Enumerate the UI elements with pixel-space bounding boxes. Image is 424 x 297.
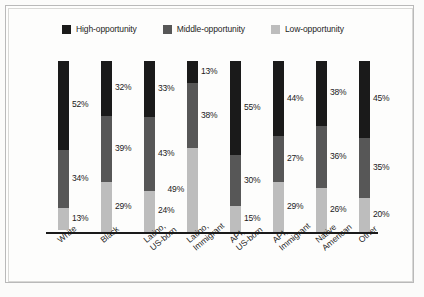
value-label-middle: 36% <box>330 151 346 161</box>
segment-high <box>273 61 284 136</box>
x-axis-line <box>46 232 378 234</box>
bar-native-american: 38%36%26% <box>316 61 327 232</box>
segment-high <box>58 61 69 150</box>
segment-high <box>230 61 241 155</box>
segment-low <box>316 188 327 232</box>
plot-area: 52%34%13%White32%39%29%Black33%43%24%Lat… <box>0 0 424 297</box>
value-label-low: 29% <box>287 201 303 211</box>
segment-high <box>187 61 198 83</box>
bar-latino-us-born: 33%43%24% <box>144 61 155 232</box>
segment-high <box>359 61 370 138</box>
segment-low <box>101 182 112 232</box>
segment-middle <box>273 136 284 182</box>
value-label-low: 20% <box>373 209 389 219</box>
segment-high <box>316 61 327 126</box>
bar-api-immigrant: 44%27%29% <box>273 61 284 232</box>
value-label-low: 26% <box>330 204 346 214</box>
segment-low <box>187 148 198 232</box>
value-label-high: 33% <box>158 83 174 93</box>
segment-middle <box>230 155 241 206</box>
value-label-high: 45% <box>373 93 389 103</box>
bar-other: 45%35%20% <box>359 61 370 232</box>
segment-middle <box>187 83 198 148</box>
value-label-high: 55% <box>244 102 260 112</box>
value-label-high: 32% <box>115 82 131 92</box>
bar-white: 52%34%13% <box>58 61 69 232</box>
value-label-high: 44% <box>287 93 303 103</box>
value-label-low: 13% <box>72 213 88 223</box>
segment-middle <box>359 138 370 198</box>
segment-middle <box>144 117 155 191</box>
segment-middle <box>58 150 69 208</box>
value-label-high: 52% <box>72 99 88 109</box>
value-label-middle: 27% <box>287 153 303 163</box>
value-label-low: 49% <box>168 184 184 194</box>
value-label-middle: 38% <box>201 110 217 120</box>
value-label-middle: 43% <box>158 148 174 158</box>
value-label-middle: 30% <box>244 175 260 185</box>
segment-high <box>101 61 112 116</box>
segment-middle <box>101 116 112 183</box>
bar-black: 32%39%29% <box>101 61 112 232</box>
value-label-high: 13% <box>201 66 217 76</box>
value-label-middle: 34% <box>72 173 88 183</box>
segment-middle <box>316 126 327 188</box>
segment-high <box>144 61 155 117</box>
bar-api-us-born: 55%30%15% <box>230 61 241 232</box>
value-label-low: 24% <box>158 205 174 215</box>
chart-page: High-opportunity Middle-opportunity Low-… <box>0 0 424 297</box>
value-label-low: 29% <box>115 201 131 211</box>
value-label-middle: 35% <box>373 162 389 172</box>
bar-latino-immigrant: 13%38%49% <box>187 61 198 232</box>
value-label-high: 38% <box>330 87 346 97</box>
value-label-middle: 39% <box>115 143 131 153</box>
segment-low <box>273 182 284 232</box>
